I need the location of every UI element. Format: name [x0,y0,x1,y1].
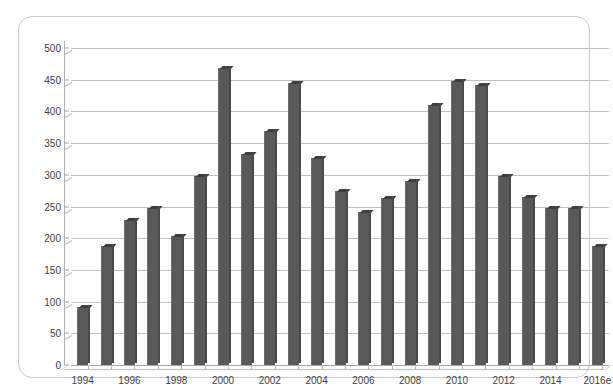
bar-slot [288,48,299,365]
x-axis-tick-label-2014: 2014 [539,375,561,386]
bar-2007[interactable] [381,198,392,365]
bar-top-face [570,206,584,209]
bar-slot [428,48,439,365]
y-axis-line [64,41,65,365]
bar-1996[interactable] [124,220,135,365]
bar-top-face [103,244,117,247]
bar-1994[interactable] [77,307,88,365]
bar-side-face [275,129,277,363]
y-axis-tick-label-250: 250 [31,201,61,212]
y-axis-tick-label-50: 50 [31,328,61,339]
x-axis-tick-2009 [439,365,440,369]
x-axis-tick-label-2008: 2008 [399,375,421,386]
bar-side-face [322,156,324,363]
bar-slot [475,48,486,365]
bar-2012[interactable] [498,176,509,365]
bar-2010[interactable] [451,81,462,365]
bar-slot [194,48,205,365]
bar-slot [568,48,579,365]
bar-slot [77,48,88,365]
bar-2002[interactable] [264,131,275,365]
bar-side-face [416,179,418,363]
bar-2013[interactable] [522,197,533,365]
x-axis-tick-2001 [251,365,252,369]
bar-1997[interactable] [147,208,158,365]
bar-top-face [594,244,608,247]
x-axis-tick-1996 [134,365,135,369]
bar-side-face [135,218,137,363]
bar-2009[interactable] [428,105,439,365]
x-axis-tick-label-2010: 2010 [446,375,468,386]
x-axis-line [71,365,607,366]
bar-2008[interactable] [405,181,416,365]
bar-top-face [173,234,187,237]
bar-slot [241,48,252,365]
bar-top-face [290,81,304,84]
bar-side-face [369,210,371,363]
y-axis-tick-label-0: 0 [31,360,61,371]
bar-top-face [524,195,538,198]
bar-side-face [229,66,231,363]
x-axis-tick-2013 [532,365,533,369]
bar-2011[interactable] [475,85,486,365]
bar-side-face [252,152,254,363]
bar-top-face [477,83,491,86]
x-axis-front-edge [64,369,604,370]
bar-2006[interactable] [358,212,369,365]
y-axis-tick-label-200: 200 [31,233,61,244]
bar-slot [592,48,603,365]
bar-top-face [337,189,351,192]
x-axis-tick-label-1996: 1996 [118,375,140,386]
bar-top-face [313,156,327,159]
bar-slot [451,48,462,365]
x-axis-tick-1997 [158,365,159,369]
bar-1998[interactable] [171,236,182,365]
x-axis-tick-2006 [368,365,369,369]
bar-slot [405,48,416,365]
bar-2001[interactable] [241,154,252,365]
bar-side-face [462,79,464,363]
y-axis-tick-label-100: 100 [31,296,61,307]
bar-side-face [533,195,535,363]
bar-side-face [509,174,511,363]
bar-1995[interactable] [101,246,112,365]
bar-side-face [392,196,394,363]
x-axis-tick-2002 [275,365,276,369]
bar-2016e[interactable] [592,246,603,365]
x-axis-tick-label-2012: 2012 [493,375,515,386]
bar-top-face [243,152,257,155]
x-axis-tick-2011 [485,365,486,369]
x-axis-tick-2015 [579,365,580,369]
bar-2014[interactable] [545,208,556,365]
bar-top-face [383,196,397,199]
bar-side-face [579,206,581,363]
bar-top-face [126,218,140,221]
x-axis-tick-label-1994: 1994 [72,375,94,386]
bar-2005[interactable] [335,191,346,365]
bar-side-face [603,244,605,363]
y-axis-tick-label-350: 350 [31,138,61,149]
x-axis-tick-2000 [228,365,229,369]
bar-1999[interactable] [194,176,205,365]
bar-top-face [149,206,163,209]
x-axis-tick-2004 [322,365,323,369]
bar-2015[interactable] [568,208,579,365]
bar-series [71,48,609,365]
bar-2000[interactable] [218,68,229,365]
bar-side-face [556,206,558,363]
bar-slot [358,48,369,365]
bar-slot [218,48,229,365]
x-axis-tick-2007 [392,365,393,369]
bar-top-face [547,206,561,209]
bar-slot [498,48,509,365]
x-axis-tick-label-2016e: 2016e [583,375,611,386]
bar-2004[interactable] [311,158,322,365]
bar-side-face [205,174,207,363]
chart-frame: 050100150200250300350400450500 199419961… [18,16,590,378]
bar-2003[interactable] [288,83,299,365]
y-axis-tick-label-150: 150 [31,264,61,275]
plot-area [71,48,609,365]
bar-top-face [79,305,93,308]
bar-top-face [453,79,467,82]
x-axis-tick-1998 [181,365,182,369]
